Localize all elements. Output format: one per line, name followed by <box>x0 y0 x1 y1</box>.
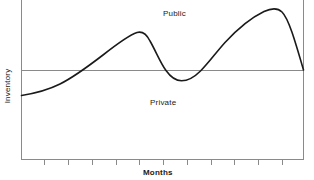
chart-canvas <box>0 0 314 180</box>
x-axis-label: Months <box>143 169 173 177</box>
inventory-cycle-chart: Public Private Months Inventory <box>0 0 314 180</box>
annotation-private: Private <box>150 99 176 107</box>
y-axis-label: Inventory <box>4 61 12 111</box>
inventory-curve <box>22 9 304 96</box>
annotation-public: Public <box>163 10 186 18</box>
